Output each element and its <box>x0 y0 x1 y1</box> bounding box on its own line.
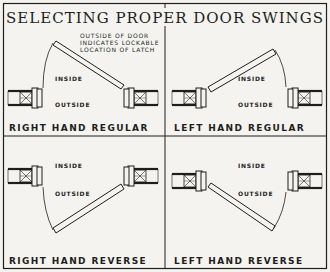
inside-label: INSIDE <box>238 75 266 82</box>
caption: RIGHT HAND REGULAR <box>9 123 149 133</box>
outside-label: OUTSIDE <box>238 101 273 108</box>
right-jamb <box>288 88 322 108</box>
note-line-1: OUTSIDE OF DOOR <box>80 32 149 39</box>
right-jamb <box>124 88 158 108</box>
left-jamb <box>8 88 42 108</box>
page-title: SELECTING PROPER DOOR SWINGS <box>6 9 324 27</box>
panel-right-hand-regular: OUTSIDE OF DOOR INDICATES LOCKABLE LOCAT… <box>8 32 159 133</box>
caption: RIGHT HAND REVERSE <box>9 256 147 266</box>
left-jamb <box>172 88 206 108</box>
note-line-2: INDICATES LOCKABLE <box>80 39 159 46</box>
swing-arc <box>274 192 286 228</box>
right-jamb <box>288 171 322 191</box>
caption: LEFT HAND REGULAR <box>174 123 305 133</box>
door-leaf <box>208 49 276 92</box>
right-jamb <box>124 166 158 186</box>
note-line-3: LOCATION OF LATCH <box>80 46 155 53</box>
caption: LEFT HAND REVERSE <box>174 256 304 266</box>
swing-arc <box>43 187 53 230</box>
outside-label: OUTSIDE <box>55 190 90 197</box>
panel-left-hand-reverse: INSIDE OUTSIDE LEFT HAND REVERSE <box>172 162 322 266</box>
panel-left-hand-regular: INSIDE OUTSIDE LEFT HAND REGULAR <box>172 49 322 133</box>
left-jamb <box>8 166 42 186</box>
panel-right-hand-reverse: INSIDE OUTSIDE RIGHT HAND REVERSE <box>8 162 158 266</box>
inside-label: INSIDE <box>238 162 266 169</box>
left-jamb <box>172 171 206 191</box>
outside-label: OUTSIDE <box>55 101 90 108</box>
outside-label: OUTSIDE <box>238 190 273 197</box>
inside-label: INSIDE <box>55 162 83 169</box>
swing-arc <box>43 43 53 88</box>
inside-label: INSIDE <box>55 75 83 82</box>
door-swing-diagram: SELECTING PROPER DOOR SWINGS OUTSIDE OF … <box>0 0 330 272</box>
swing-arc <box>275 50 286 87</box>
